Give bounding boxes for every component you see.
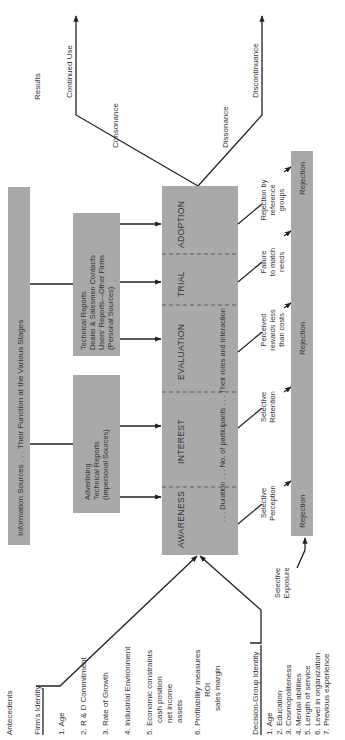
reason-selective-exposure: Selective Exposure	[273, 567, 291, 598]
decision-group-title: Decision-Group Identity	[251, 651, 260, 735]
reason-selective-perception: Selective Perception	[259, 485, 277, 520]
svg-text:Rejection by: Rejection by	[259, 179, 268, 220]
dissonance-label: Dissonance	[221, 106, 230, 148]
svg-text:assets: assets	[175, 700, 184, 723]
stages-caption: . . . Duration . . . No. of participants…	[218, 308, 227, 522]
svg-text:5. Economic constraints: 5. Economic constraints	[145, 650, 154, 735]
adoption-process-diagram: Results Continued Use Consonance Dissona…	[0, 0, 345, 740]
svg-text:Selective: Selective	[259, 392, 268, 422]
svg-text:Failure: Failure	[259, 251, 268, 274]
firm-item-6: 6. Profitability measures ROI sales marg…	[193, 650, 222, 735]
stage-adoption: ADOPTION	[176, 201, 186, 248]
reason-rewards-less-than-costs: Perceived rewards less than costs	[259, 309, 286, 351]
arrow-to-rejection	[284, 231, 291, 236]
discontinuance-label: Discontinuance	[251, 43, 260, 98]
svg-text:than costs: than costs	[277, 313, 286, 347]
reason-failure-to-match-needs: Failure to match needs	[259, 248, 286, 276]
svg-text:ROI: ROI	[203, 683, 212, 697]
svg-text:Exposure: Exposure	[282, 567, 291, 598]
svg-text:6. Level in organization: 6. Level in organization	[313, 653, 322, 735]
svg-text:6. Profitability measures: 6. Profitability measures	[193, 650, 202, 735]
antecedents-title: Antecedents	[5, 691, 14, 735]
information-sources-title: Information Sources . . . Their Function…	[16, 320, 25, 536]
svg-text:Selective: Selective	[273, 568, 282, 598]
svg-text:rewards less: rewards less	[268, 309, 277, 351]
svg-text:4. Mental abilities: 4. Mental abilities	[294, 673, 303, 735]
firm-item-4: 4. Industrial Environment	[123, 646, 132, 735]
svg-text:Users' Reports—Other Firms: Users' Reports—Other Firms	[97, 255, 106, 350]
stage-evaluation: EVALUATION	[176, 324, 186, 380]
svg-text:Technical Reports: Technical Reports	[92, 441, 101, 500]
consonance-label: Consonance	[111, 103, 120, 148]
firm-item-1: 1. Age	[57, 712, 66, 735]
reason-selective-retention: Selective Retention	[259, 391, 277, 423]
svg-text:cash position: cash position	[155, 676, 164, 723]
svg-text:Retention: Retention	[268, 391, 277, 423]
arrow-to-rejection	[284, 167, 291, 172]
stage-awareness: AWARENESS	[176, 491, 186, 548]
svg-text:Dealer & Salesmen Contacts: Dealer & Salesmen Contacts	[88, 255, 97, 350]
selective-exposure-arrow	[297, 538, 305, 568]
firm-item-3: 3. Rate of Growth	[101, 672, 110, 735]
svg-text:2. Education: 2. Education	[275, 691, 284, 735]
stage-trial: TRIAL	[176, 271, 186, 297]
svg-text:net income: net income	[165, 683, 174, 723]
decision-group-items: 1. Age 2. Education 3. Cosmopoliteness 4…	[265, 653, 331, 735]
discontinuance-path	[198, 16, 262, 186]
firm-identity-title: Firm's Identity	[33, 685, 42, 735]
continued-use-path	[76, 16, 198, 186]
svg-text:groups: groups	[277, 188, 286, 211]
rejection-label-adoption: Rejection	[298, 162, 307, 195]
arrow-to-rejection	[284, 387, 291, 392]
svg-text:7. Previous experience: 7. Previous experience	[322, 653, 331, 735]
svg-text:sales margin: sales margin	[213, 666, 222, 711]
svg-text:to match: to match	[268, 248, 277, 276]
arrow-to-rejection	[284, 481, 291, 486]
firm-item-5: 5. Economic constraints cash position ne…	[145, 650, 184, 735]
svg-text:Perception: Perception	[268, 485, 277, 520]
rejection-label-awareness: Rejection	[298, 495, 307, 528]
svg-text:Technical Reports: Technical Reports	[79, 291, 88, 350]
svg-text:reference: reference	[268, 184, 277, 215]
arrow-to-rejection	[284, 303, 291, 308]
svg-text:(Personal Sources): (Personal Sources)	[106, 287, 115, 350]
svg-text:(Impersonal Sources): (Impersonal Sources)	[101, 429, 110, 500]
svg-text:1. Age: 1. Age	[265, 712, 274, 735]
decision-group-connector	[200, 556, 261, 643]
firm-identity-connector	[36, 556, 197, 686]
svg-text:Advertising: Advertising	[83, 463, 92, 500]
firm-item-2: 2. R & D Commitment	[79, 656, 88, 735]
svg-text:Perceived: Perceived	[259, 314, 268, 347]
stage-interest: INTEREST	[176, 419, 186, 464]
reason-reference-groups: Rejection by reference groups	[259, 179, 286, 220]
svg-text:Selective: Selective	[259, 488, 268, 518]
svg-text:needs: needs	[277, 252, 286, 272]
svg-text:5. Length of service: 5. Length of service	[303, 665, 312, 735]
rejection-label-middle: Rejection	[298, 322, 307, 355]
results-label: Results	[33, 73, 42, 100]
continued-use-label: Continued Use	[65, 45, 74, 98]
svg-text:3. Cosmopoliteness: 3. Cosmopoliteness	[284, 665, 293, 735]
